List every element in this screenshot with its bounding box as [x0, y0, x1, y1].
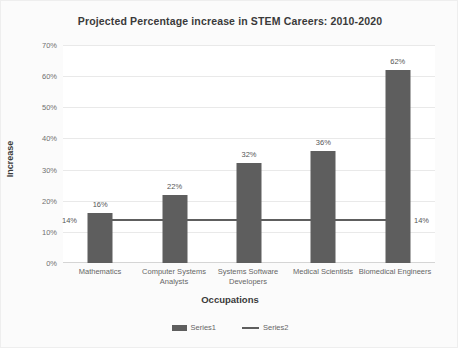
y-axis-tick-label: 70% — [42, 41, 57, 50]
x-axis-tick-label-computer-systems-analysts: Computer Systems Analysts — [133, 267, 215, 286]
bar-computer-systems-analysts[interactable] — [162, 195, 187, 264]
bar-slot: 32% — [212, 45, 286, 263]
chart-title: Projected Percentage increase in STEM Ca… — [1, 15, 458, 27]
y-axis-tick-label: 40% — [42, 134, 57, 143]
bar-slot: 36% — [286, 45, 360, 263]
x-axis-tick-label-medical-scientists: Medical Scientists — [282, 267, 364, 277]
legend-label: Series1 — [191, 323, 216, 332]
y-axis-tick-label: 50% — [42, 103, 57, 112]
series2-end-label: 14% — [414, 216, 429, 225]
legend-item-series2[interactable]: Series2 — [242, 323, 288, 332]
bar-value-label: 22% — [167, 182, 182, 191]
x-axis-tick-label-mathematics: Mathematics — [59, 267, 141, 277]
bar-systems-software-developers[interactable] — [236, 163, 261, 263]
bar-medical-scientists[interactable] — [311, 151, 336, 263]
bar-slot: 16% — [63, 45, 137, 263]
bar-slot: 62% — [361, 45, 435, 263]
legend-item-series1[interactable]: Series1 — [172, 323, 216, 332]
legend-line-swatch-icon — [242, 327, 259, 329]
bar-biomedical-engineers[interactable] — [385, 70, 410, 263]
y-axis-tick-label: 30% — [42, 165, 57, 174]
y-axis-tick-label: 20% — [42, 196, 57, 205]
bar-value-label: 62% — [390, 57, 405, 66]
y-axis-tick-label: 0% — [46, 259, 57, 268]
bar-slot: 22% — [137, 45, 211, 263]
y-axis-tick-label: 10% — [42, 227, 57, 236]
plot-area: 70% 60% 50% 40% 30% 20% 10% 0% 16% 22% 3… — [63, 45, 435, 263]
series2-start-label: 14% — [62, 216, 77, 225]
chart-container: Projected Percentage increase in STEM Ca… — [0, 0, 458, 348]
series2-line[interactable] — [100, 219, 410, 221]
y-axis-title: Increase — [5, 141, 15, 178]
bar-value-label: 36% — [316, 138, 331, 147]
bar-value-label: 16% — [93, 200, 108, 209]
x-axis-title: Occupations — [1, 294, 458, 305]
x-axis-tick-label-biomedical-engineers: Biomedical Engineers — [354, 267, 436, 277]
bar-value-label: 32% — [241, 150, 256, 159]
chart-legend: Series1 Series2 — [1, 323, 458, 332]
x-axis-tick-label-systems-software-developers: Systems Software Developers — [207, 267, 289, 286]
legend-label: Series2 — [263, 323, 288, 332]
legend-bar-swatch-icon — [172, 325, 187, 331]
y-axis-tick-label: 60% — [42, 72, 57, 81]
